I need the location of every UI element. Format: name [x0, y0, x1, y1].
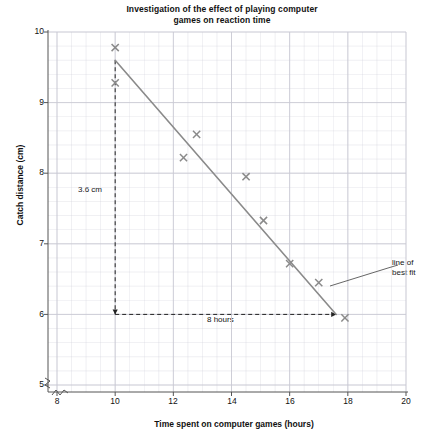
- data-point: [260, 217, 267, 224]
- callout-leader-line: [330, 265, 398, 286]
- data-point: [193, 131, 200, 138]
- major-gridlines: [48, 32, 406, 392]
- data-points: [112, 44, 349, 322]
- gradient-triangle-guides: [113, 60, 337, 317]
- plot-area: [0, 0, 444, 436]
- data-point: [180, 154, 187, 161]
- minor-gridlines: [48, 32, 406, 392]
- chart-container: Investigation of the effect of playing c…: [0, 0, 444, 436]
- axis-ticks: [44, 32, 406, 396]
- axis-lines: [48, 30, 408, 392]
